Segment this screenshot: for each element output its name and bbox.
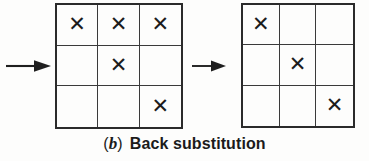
matrix-cell: ✕ — [316, 86, 353, 126]
matrix-cell: ✕ — [140, 86, 181, 127]
matrix-cell: ✕ — [243, 5, 280, 45]
x-mark-icon: ✕ — [152, 96, 170, 117]
caption-paren-close: ) — [117, 135, 122, 152]
right-arrow-icon — [192, 59, 227, 73]
x-mark-icon: ✕ — [326, 95, 344, 116]
matrix-cell — [57, 46, 98, 87]
figure-back-substitution: ✕ ✕ ✕ ✕ ✕ ✕ ✕ ✕ (b)Back substitution — [0, 0, 369, 161]
x-mark-icon: ✕ — [152, 14, 170, 35]
matrix-cell — [280, 86, 317, 126]
x-mark-icon: ✕ — [289, 54, 307, 75]
matrix-cell — [98, 86, 139, 127]
matrix-cell — [243, 86, 280, 126]
x-mark-icon: ✕ — [68, 14, 86, 35]
figure-caption: (b)Back substitution — [0, 134, 369, 154]
upper-triangular-matrix: ✕ ✕ ✕ ✕ ✕ — [55, 3, 183, 129]
diagonal-matrix: ✕ ✕ ✕ — [241, 3, 355, 128]
matrix-cell — [57, 86, 98, 127]
matrix-cell — [140, 46, 181, 87]
x-mark-icon: ✕ — [252, 14, 270, 35]
x-mark-icon: ✕ — [110, 14, 128, 35]
right-arrow-icon — [6, 59, 52, 73]
matrix-cell: ✕ — [140, 5, 181, 46]
matrix-cell: ✕ — [98, 46, 139, 87]
matrix-cell — [316, 45, 353, 85]
matrix-cell: ✕ — [280, 45, 317, 85]
matrix-cell — [243, 45, 280, 85]
matrix-cell — [280, 5, 317, 45]
matrix-cell: ✕ — [98, 5, 139, 46]
matrix-cell: ✕ — [57, 5, 98, 46]
matrix-cell — [316, 5, 353, 45]
caption-title: Back substitution — [130, 135, 266, 152]
x-mark-icon: ✕ — [110, 54, 128, 75]
